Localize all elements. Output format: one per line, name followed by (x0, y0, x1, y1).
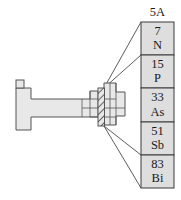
element-symbol: N (153, 38, 162, 52)
element-symbol: Bi (152, 171, 164, 185)
periodic-table-outline (16, 80, 125, 130)
leader-line-to-bi (104, 126, 141, 188)
element-cell-n: 7 N (141, 22, 174, 55)
hydrogen-cell (16, 80, 24, 88)
leader-line-to-n (104, 22, 141, 88)
element-cell-as: 33 As (141, 88, 174, 122)
element-symbol: Sb (151, 138, 164, 152)
group-label: 5A (150, 5, 165, 19)
group-5a-highlight (98, 88, 105, 126)
element-cell-bi: 83 Bi (141, 155, 174, 188)
table-body (16, 83, 125, 130)
atomic-number: 15 (151, 57, 164, 71)
atomic-number: 51 (151, 124, 164, 138)
leader-line-to-sb (104, 126, 141, 155)
atomic-number: 33 (151, 90, 164, 104)
element-symbol: As (151, 105, 165, 119)
callout-column: 5A 7 N 15 P 33 As 51 (141, 5, 174, 188)
atomic-number: 7 (154, 24, 160, 38)
element-cell-sb: 51 Sb (141, 122, 174, 155)
periodic-table-group-5a-figure: 5A 7 N 15 P 33 As 51 (0, 0, 181, 200)
figure-canvas: 5A 7 N 15 P 33 As 51 (0, 0, 181, 200)
element-symbol: P (154, 71, 161, 85)
atomic-number: 83 (151, 157, 164, 171)
element-cell-p: 15 P (141, 55, 174, 88)
